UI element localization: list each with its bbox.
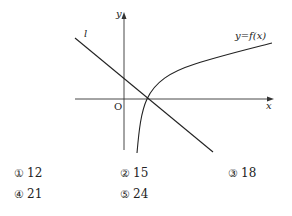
choice-2[interactable]: ②15 bbox=[120, 167, 148, 179]
choice-3[interactable]: ③18 bbox=[228, 167, 256, 179]
answer-choices: ①12 ②15 ③18 ④21 ⑤24 bbox=[0, 0, 292, 216]
choice-marker: ① bbox=[14, 167, 24, 180]
choice-marker: ⑤ bbox=[120, 188, 130, 201]
choice-4[interactable]: ④21 bbox=[14, 188, 42, 200]
choice-value: 24 bbox=[133, 187, 148, 201]
choice-value: 15 bbox=[133, 166, 148, 180]
choice-marker: ④ bbox=[14, 188, 24, 201]
choice-value: 12 bbox=[27, 166, 42, 180]
choice-value: 21 bbox=[27, 187, 42, 201]
choice-value: 18 bbox=[241, 166, 256, 180]
choice-1[interactable]: ①12 bbox=[14, 167, 42, 179]
choice-marker: ② bbox=[120, 167, 130, 180]
choice-5[interactable]: ⑤24 bbox=[120, 188, 148, 200]
choice-marker: ③ bbox=[228, 167, 238, 180]
